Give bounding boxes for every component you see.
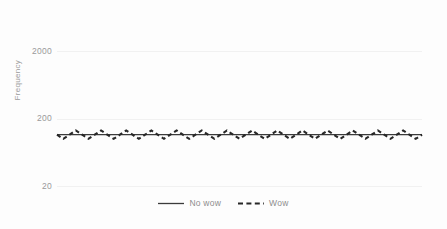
gridline-20	[57, 186, 422, 187]
chart-legend: No wow Wow	[0, 198, 447, 208]
y-axis-tick-labels: 2000 200 20	[0, 0, 52, 229]
frequency-chart: 2000 200 20 Frequency No wow Wow	[0, 0, 447, 229]
legend-swatch-solid-icon	[158, 200, 184, 207]
legend-entry-wow[interactable]: Wow	[238, 198, 289, 208]
legend-entry-no-wow[interactable]: No wow	[158, 198, 221, 208]
y-tick-label-20: 20	[42, 181, 52, 191]
series-plot	[57, 51, 422, 186]
legend-label-no-wow: No wow	[189, 198, 221, 208]
y-axis-title: Frequency	[13, 60, 22, 101]
legend-swatch-dashed-icon	[238, 200, 264, 207]
y-tick-label-200: 200	[37, 113, 52, 123]
legend-label-wow: Wow	[269, 198, 289, 208]
y-tick-label-2000: 2000	[32, 46, 52, 56]
plot-area	[57, 51, 422, 186]
